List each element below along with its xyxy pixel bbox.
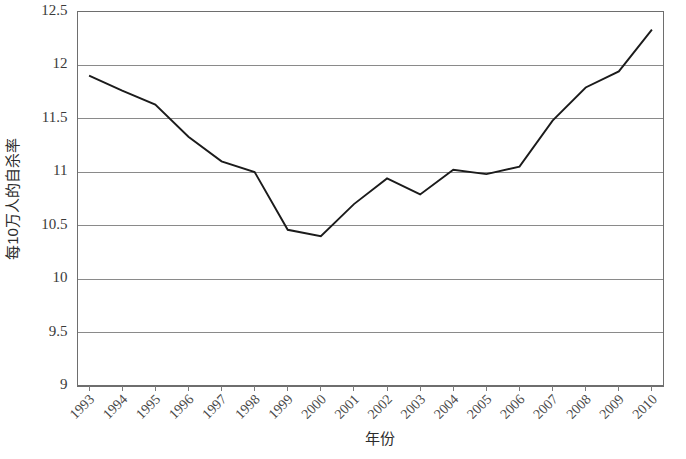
x-axis-tick-label: 2006 <box>497 392 527 422</box>
x-axis-tick-label: 2007 <box>530 392 560 422</box>
line-chart: 99.51010.51111.51212.5 19931994199519961… <box>0 0 686 459</box>
x-axis-title: 年份 <box>365 430 395 447</box>
x-axis-tick-label: 2005 <box>464 392 494 422</box>
x-axis-tick-label: 2010 <box>630 392 660 422</box>
x-axis-tick-labels: 1993199419951996199719981999200020012002… <box>67 392 660 422</box>
x-axis-tick-label: 2003 <box>398 392 428 422</box>
y-axis-tick-label: 10 <box>53 269 68 285</box>
x-axis-tick-label: 2002 <box>365 392 395 422</box>
x-axis-tick-label: 1999 <box>265 392 295 422</box>
y-axis-tick-label: 11.5 <box>42 109 68 125</box>
y-axis-tick-label: 11 <box>53 162 67 178</box>
suicide-rate-line <box>89 30 652 237</box>
y-axis-tick-label: 9 <box>60 376 68 392</box>
x-axis-tick-label: 2009 <box>597 392 627 422</box>
x-axis-tick-label: 2001 <box>332 392 362 422</box>
x-axis-tick-label: 1993 <box>67 392 97 422</box>
y-axis-tick-label: 12.5 <box>41 2 67 18</box>
x-axis-tick-marks <box>89 386 652 391</box>
y-axis-tick-label: 12 <box>53 55 68 71</box>
x-axis-tick-label: 1998 <box>232 392 262 422</box>
y-axis-tick-labels: 99.51010.51111.51212.5 <box>41 2 67 393</box>
y-axis-title: 每10万人的自杀率 <box>4 138 21 260</box>
y-axis-tick-label: 9.5 <box>49 323 68 339</box>
x-axis-tick-label: 2004 <box>431 392 461 422</box>
x-axis-tick-label: 2008 <box>563 392 593 422</box>
x-axis-tick-label: 1994 <box>100 392 130 422</box>
plot-area-border <box>78 12 664 387</box>
x-axis-tick-label: 2000 <box>299 392 329 422</box>
x-axis-tick-label: 1995 <box>133 392 163 422</box>
x-axis-tick-label: 1996 <box>166 392 196 422</box>
y-axis-tick-label: 10.5 <box>41 216 67 232</box>
chart-page: 99.51010.51111.51212.5 19931994199519961… <box>0 0 686 459</box>
horizontal-gridlines <box>78 12 664 387</box>
x-axis-tick-label: 1997 <box>199 392 229 422</box>
